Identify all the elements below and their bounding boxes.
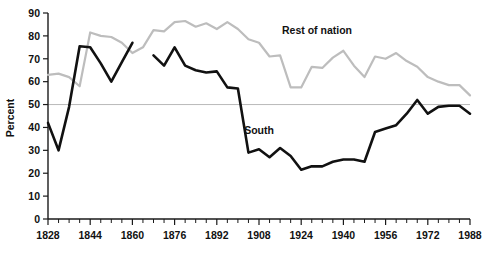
x-tick-label-1828: 1828 — [36, 229, 60, 241]
y-tick-label-70: 70 — [28, 53, 40, 65]
series-line-rest-of-nation — [48, 21, 470, 95]
x-tick-label-1876: 1876 — [163, 229, 187, 241]
y-tick-label-90: 90 — [28, 7, 40, 19]
y-tick-label-30: 30 — [28, 144, 40, 156]
y-axis-title: Percent — [4, 98, 16, 137]
x-tick-label-1956: 1956 — [374, 229, 398, 241]
chart-canvas: 0102030405060708090 18281844186018761892… — [0, 0, 482, 259]
x-tick-label-1908: 1908 — [247, 229, 271, 241]
turnout-line-chart: 0102030405060708090 18281844186018761892… — [0, 0, 482, 259]
x-axis-tick-group — [48, 219, 470, 225]
x-tick-label-1972: 1972 — [416, 229, 440, 241]
y-axis-tick-group — [43, 13, 48, 219]
y-tick-label-20: 20 — [28, 167, 40, 179]
y-tick-label-60: 60 — [28, 75, 40, 87]
x-tick-label-1844: 1844 — [79, 229, 103, 241]
x-tick-label-1892: 1892 — [205, 229, 229, 241]
y-axis-label-group: 0102030405060708090 — [28, 7, 40, 225]
series-south-segment-1 — [48, 43, 132, 151]
x-tick-label-1988: 1988 — [458, 229, 482, 241]
y-tick-label-80: 80 — [28, 30, 40, 42]
x-tick-label-1924: 1924 — [290, 229, 314, 241]
y-tick-label-10: 10 — [28, 190, 40, 202]
x-axis-label-group: 1828184418601876189219081924194019561972… — [36, 229, 482, 241]
series-annotation-south: South — [244, 124, 274, 136]
x-tick-label-1860: 1860 — [121, 229, 145, 241]
y-tick-label-40: 40 — [28, 121, 40, 133]
y-tick-label-50: 50 — [28, 98, 40, 110]
y-tick-label-0: 0 — [34, 213, 40, 225]
series-annotation-rest-of-nation: Rest of nation — [282, 24, 352, 36]
x-tick-label-1940: 1940 — [332, 229, 356, 241]
